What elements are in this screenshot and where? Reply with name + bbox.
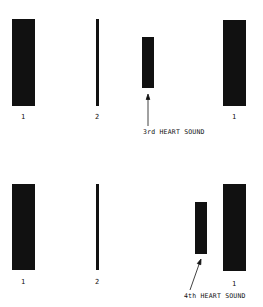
s1-label: 1 xyxy=(17,278,29,286)
s3-bar xyxy=(142,37,154,88)
s1-bar xyxy=(12,184,35,270)
arrow-diagonal-icon xyxy=(190,259,201,290)
s2-bar xyxy=(96,184,99,270)
arrow-up-icon xyxy=(146,94,150,126)
s1-next-bar xyxy=(223,184,246,271)
third-heart-sound-caption: 3rd HEART SOUND xyxy=(143,128,205,136)
fourth-heart-sound-caption: 4th HEART SOUND xyxy=(184,292,246,300)
s1-bar xyxy=(12,19,35,106)
s1-next-bar xyxy=(223,20,246,106)
s1-label: 1 xyxy=(17,113,29,121)
s1-next-label: 1 xyxy=(228,113,240,121)
s2-bar xyxy=(96,19,99,106)
s2-label: 2 xyxy=(91,113,103,121)
s4-bar xyxy=(195,202,207,254)
s2-label: 2 xyxy=(91,278,103,286)
s1-next-label: 1 xyxy=(228,280,240,288)
